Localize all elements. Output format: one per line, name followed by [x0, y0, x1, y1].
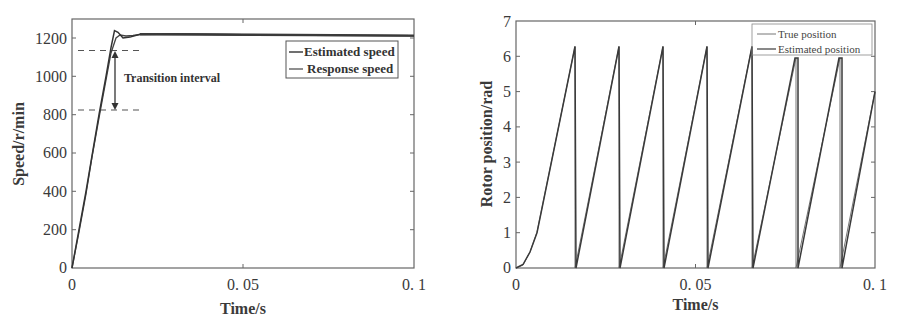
speed-y-tick-1000: 1000 — [35, 68, 67, 85]
speed-chart: 0 200 400 600 800 1000 1200 0 0. 05 0. 1… — [10, 19, 426, 317]
position-x-tick-005: 0. 05 — [680, 276, 712, 293]
position-y-tick-3: 3 — [503, 154, 511, 171]
position-y-tick-1: 1 — [503, 224, 511, 241]
transition-interval-arrow — [112, 51, 119, 110]
position-y-tick-7: 7 — [503, 13, 511, 30]
speed-y-tick-1200: 1200 — [35, 30, 67, 47]
speed-x-axis-title: Time/s — [220, 300, 266, 317]
figure: 0 200 400 600 800 1000 1200 0 0. 05 0. 1… — [0, 0, 900, 324]
speed-y-tick-800: 800 — [43, 106, 67, 123]
speed-x-tick-005: 0. 05 — [227, 276, 259, 293]
position-legend: True position Estimated position — [752, 24, 872, 55]
speed-steady-state-band — [140, 34, 414, 35]
rotor-position-chart: 0 1 2 3 4 5 6 7 0 0. 05 0. 1 Time/s Roto… — [478, 13, 887, 313]
position-y-tick-4: 4 — [503, 118, 511, 135]
position-x-tick-0: 0 — [512, 276, 520, 293]
position-y-tick-0: 0 — [503, 259, 511, 276]
position-x-tick-01: 0. 1 — [863, 276, 887, 293]
position-y-ticks — [516, 21, 875, 268]
speed-x-tick-01: 0. 1 — [402, 276, 426, 293]
legend-estimated-speed: Estimated speed — [304, 44, 395, 59]
position-y-tick-6: 6 — [503, 48, 511, 65]
position-x-axis-title: Time/s — [673, 296, 719, 313]
speed-y-tick-400: 400 — [43, 183, 67, 200]
legend-response-speed: Response speed — [307, 61, 394, 76]
position-y-axis-title: Rotor position/rad — [478, 81, 496, 207]
true-position-line — [516, 47, 875, 269]
position-plot-area — [516, 21, 875, 268]
estimated-position-line — [516, 47, 875, 269]
speed-y-axis-title: Speed/r/min — [10, 102, 28, 186]
transition-interval-label: Transition interval — [124, 71, 221, 85]
speed-legend: Estimated speed Response speed — [286, 41, 398, 78]
position-y-tick-5: 5 — [503, 83, 511, 100]
speed-y-tick-200: 200 — [43, 221, 67, 238]
speed-x-tick-0: 0 — [68, 276, 76, 293]
legend-estimated-position: Estimated position — [778, 43, 861, 55]
speed-y-tick-0: 0 — [59, 259, 67, 276]
position-y-tick-2: 2 — [503, 189, 511, 206]
speed-y-tick-600: 600 — [43, 144, 67, 161]
legend-true-position: True position — [778, 28, 837, 40]
